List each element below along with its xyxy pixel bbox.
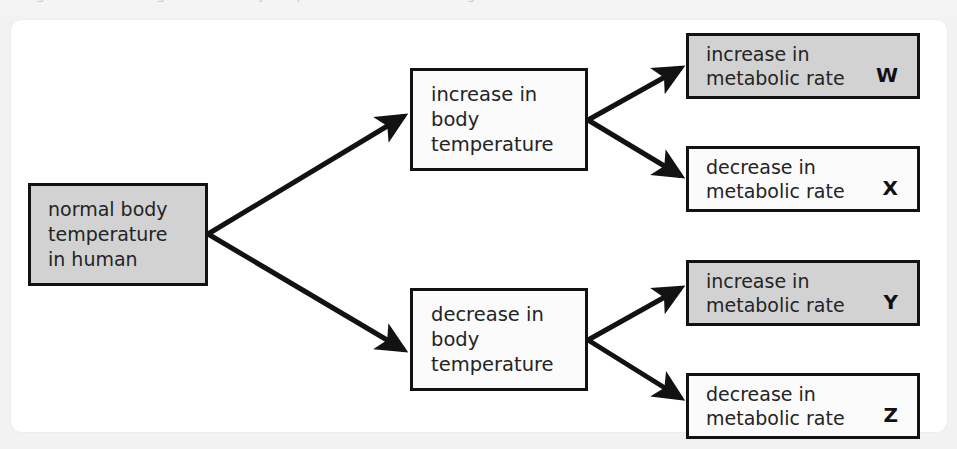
arrow-decrease-to-z xyxy=(588,340,681,398)
flow-diagram: normal body temperature in human increas… xyxy=(11,20,947,432)
node-outcome-y-label: increase in metabolic rate xyxy=(706,269,845,317)
clipped-header-text: Figure shows the regulation of body temp… xyxy=(26,0,480,2)
node-outcome-x-key: X xyxy=(883,176,898,200)
node-outcome-w: increase in metabolic rate W xyxy=(686,33,920,99)
node-decrease-in-body-temperature: decrease in body temperature xyxy=(410,288,588,391)
node-outcome-z-label: decrease in metabolic rate xyxy=(706,382,845,430)
arrow-increase-to-w xyxy=(588,68,681,120)
arrow-root-to-decrease xyxy=(208,234,404,350)
node-normal-body-temperature-label: normal body temperature in human xyxy=(48,197,168,272)
node-outcome-w-label: increase in metabolic rate xyxy=(706,42,845,90)
clipped-header-strip: Figure shows the regulation of body temp… xyxy=(0,0,957,16)
node-increase-in-body-temperature: increase in body temperature xyxy=(410,68,588,171)
arrow-increase-to-x xyxy=(588,120,681,176)
arrow-decrease-to-y xyxy=(588,288,681,340)
figure-card: normal body temperature in human increas… xyxy=(11,20,947,432)
node-decrease-in-body-temperature-label: decrease in body temperature xyxy=(431,302,585,377)
node-increase-in-body-temperature-label: increase in body temperature xyxy=(431,82,585,157)
node-normal-body-temperature: normal body temperature in human xyxy=(28,183,208,286)
node-outcome-y-key: Y xyxy=(884,290,898,314)
node-outcome-y: increase in metabolic rate Y xyxy=(686,260,920,326)
node-outcome-x: decrease in metabolic rate X xyxy=(686,146,920,212)
node-outcome-x-label: decrease in metabolic rate xyxy=(706,155,845,203)
node-outcome-z-key: Z xyxy=(883,403,898,427)
arrow-root-to-increase xyxy=(208,116,404,234)
node-outcome-z: decrease in metabolic rate Z xyxy=(686,373,920,439)
node-outcome-w-key: W xyxy=(876,63,898,87)
